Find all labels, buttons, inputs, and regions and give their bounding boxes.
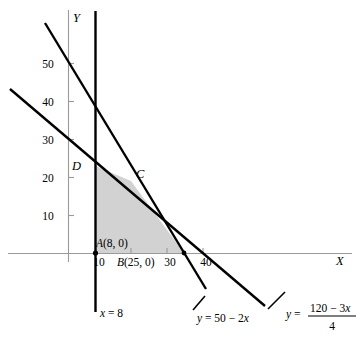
leader-line-y-equals-50-minus-2x bbox=[193, 296, 205, 310]
equation-line3-eq: = bbox=[291, 308, 300, 320]
equation-line3-num-text: 120 − 3 bbox=[310, 302, 345, 314]
graph-figure: X Y 50 40 30 20 10 10 30 40 A(8, 0) B(25… bbox=[0, 0, 360, 343]
x-tick-label-40: 40 bbox=[200, 256, 212, 268]
point-label-A: A(8, 0) bbox=[95, 237, 128, 250]
point-label-B-letter: B bbox=[117, 256, 124, 268]
equation-line3-num-x: x bbox=[344, 302, 351, 314]
linear-programming-graph: X Y 50 40 30 20 10 10 30 40 A(8, 0) B(25… bbox=[0, 0, 360, 343]
equation-line3-denominator: 4 bbox=[329, 320, 335, 332]
point-label-D: D bbox=[71, 159, 81, 173]
leader-line-y-equals-120-minus-3x-over-4 bbox=[268, 292, 285, 309]
equation-label-x-equals-8: x = 8 bbox=[99, 307, 123, 319]
point-label-B-coords: (25, 0) bbox=[124, 256, 155, 269]
vertex-dot-B bbox=[182, 251, 187, 256]
y-axis-label: Y bbox=[73, 11, 82, 25]
x-tick-label-10: 10 bbox=[93, 256, 105, 268]
x-axis-label: X bbox=[335, 254, 345, 268]
equation-x-rest: = 8 bbox=[105, 307, 123, 319]
point-label-A-coords: (8, 0) bbox=[103, 237, 128, 250]
equation-label-lhs-y-equals: y = bbox=[285, 308, 300, 321]
equation-line2-rest: = 50 − 2 bbox=[202, 312, 244, 324]
point-label-C: C bbox=[136, 167, 145, 181]
x-tick-label-30: 30 bbox=[164, 256, 176, 268]
point-label-B: B(25, 0) bbox=[117, 256, 155, 269]
y-tick-label-30: 30 bbox=[42, 134, 54, 146]
constraint-line-y-equals-120-minus-3x-over-4 bbox=[10, 89, 265, 306]
y-tick-label-40: 40 bbox=[42, 96, 54, 108]
equation-line2-x: x bbox=[243, 312, 250, 324]
equation-line3-numerator: 120 − 3x bbox=[310, 302, 351, 314]
y-tick-label-10: 10 bbox=[42, 210, 54, 222]
vertex-dot-A bbox=[93, 250, 98, 255]
equation-label-y-equals-50-minus-2x: y = 50 − 2x bbox=[196, 312, 250, 325]
y-tick-label-50: 50 bbox=[42, 58, 54, 70]
y-tick-label-20: 20 bbox=[42, 172, 54, 184]
